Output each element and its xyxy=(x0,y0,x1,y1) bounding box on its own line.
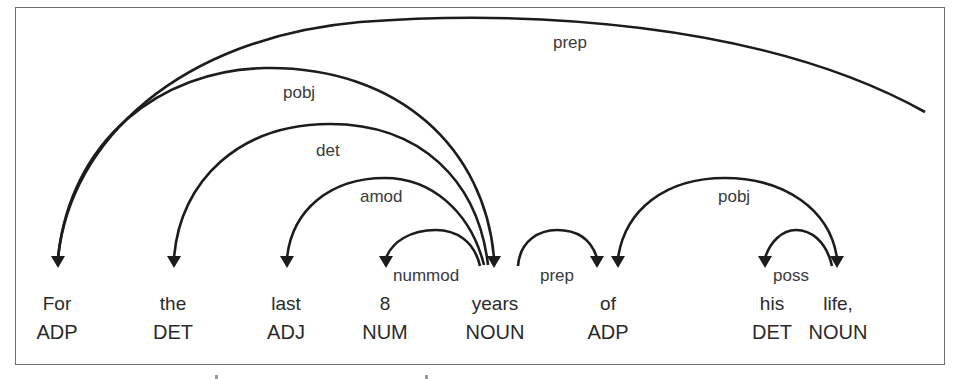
arc-label-prep-root: prep xyxy=(553,33,587,52)
token-word: the xyxy=(153,290,193,318)
arrowhead-his xyxy=(758,256,772,268)
arrowhead-of-pobj xyxy=(611,256,625,268)
arc-nummod xyxy=(386,230,480,266)
arrowhead-the xyxy=(167,256,181,268)
token-1: the DET xyxy=(153,290,193,346)
token-tag: NOUN xyxy=(466,318,525,346)
arc-label-pobj-life: pobj xyxy=(718,187,750,206)
token-tag: NOUN xyxy=(809,318,868,346)
token-6: his DET xyxy=(752,290,792,346)
token-5: of ADP xyxy=(587,290,628,346)
token-word: life, xyxy=(809,290,868,318)
arc-label-prep-of: prep xyxy=(540,266,574,285)
token-tag: DET xyxy=(752,318,792,346)
arrowhead-of-prep xyxy=(590,256,604,268)
token-word: 8 xyxy=(362,290,408,318)
token-word: years xyxy=(466,290,525,318)
clipped-caption xyxy=(15,372,945,379)
arc-label-nummod: nummod xyxy=(393,266,459,285)
token-tag: DET xyxy=(153,318,193,346)
arrowhead-for xyxy=(51,256,65,268)
token-0: For ADP xyxy=(36,290,77,346)
token-tag: ADJ xyxy=(267,318,305,346)
arrowhead-8 xyxy=(379,256,393,268)
token-tag: ADP xyxy=(587,318,628,346)
token-2: last ADJ xyxy=(267,290,305,346)
token-3: 8 NUM xyxy=(362,290,408,346)
token-word: his xyxy=(752,290,792,318)
arrowhead-years xyxy=(487,256,501,268)
arc-prep-root xyxy=(58,18,925,258)
token-word: of xyxy=(587,290,628,318)
token-word: For xyxy=(36,290,77,318)
arc-label-amod: amod xyxy=(360,187,403,206)
token-4: years NOUN xyxy=(466,290,525,346)
arc-prep-of xyxy=(518,230,597,266)
token-tag: NUM xyxy=(362,318,408,346)
token-word: last xyxy=(267,290,305,318)
arc-label-pobj-years: pobj xyxy=(283,83,315,102)
arrowhead-last xyxy=(280,256,294,268)
token-7: life, NOUN xyxy=(809,290,868,346)
token-tag: ADP xyxy=(36,318,77,346)
arc-poss xyxy=(765,230,832,266)
arc-label-poss: poss xyxy=(773,266,809,285)
arc-label-det: det xyxy=(316,141,340,160)
